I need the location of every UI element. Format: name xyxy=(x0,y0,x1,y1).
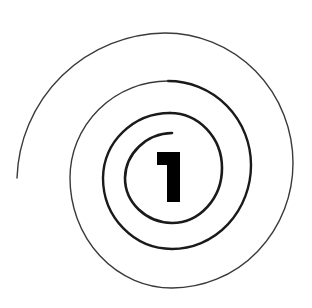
spiral-graphic xyxy=(0,0,312,308)
numeral-one-glyph xyxy=(157,152,180,202)
spiral-figure: 1 xyxy=(0,0,312,308)
